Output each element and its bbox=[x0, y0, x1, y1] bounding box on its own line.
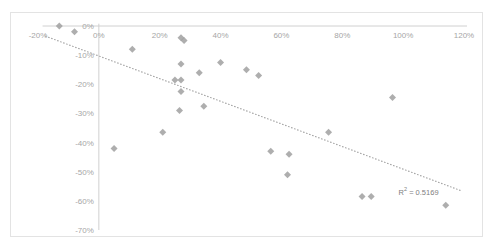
data-point-marker bbox=[178, 76, 185, 83]
y-axis-tick-label: -50% bbox=[54, 167, 94, 176]
x-axis-tick-label: 0% bbox=[93, 31, 105, 40]
y-axis-tick-label: -40% bbox=[54, 138, 94, 147]
x-axis-tick-label: -20% bbox=[29, 31, 48, 40]
data-point-marker bbox=[111, 145, 118, 152]
data-point-marker bbox=[200, 103, 207, 110]
x-axis-tick-label: 80% bbox=[334, 31, 350, 40]
data-point-marker bbox=[159, 129, 166, 136]
x-axis-tick-label: 120% bbox=[454, 31, 474, 40]
data-point-marker bbox=[442, 202, 449, 209]
data-point-marker bbox=[176, 107, 183, 114]
axis-lines bbox=[43, 24, 467, 230]
y-axis-tick-label: -60% bbox=[54, 196, 94, 205]
data-points-group bbox=[56, 23, 449, 209]
data-point-marker bbox=[217, 59, 224, 66]
x-axis-tick-label: 20% bbox=[152, 31, 168, 40]
data-point-marker bbox=[129, 46, 136, 53]
scatter-plot-canvas bbox=[0, 0, 497, 250]
data-point-marker bbox=[368, 193, 375, 200]
y-axis-tick-label: -70% bbox=[54, 226, 94, 235]
x-axis-tick-label: 40% bbox=[213, 31, 229, 40]
y-axis-tick-label: -30% bbox=[54, 109, 94, 118]
y-axis-tick-label: -10% bbox=[54, 51, 94, 60]
y-axis-tick-label: 0% bbox=[54, 22, 94, 31]
data-point-marker bbox=[325, 129, 332, 136]
data-point-marker bbox=[284, 171, 291, 178]
data-point-marker bbox=[196, 69, 203, 76]
data-point-marker bbox=[389, 94, 396, 101]
data-point-marker bbox=[286, 151, 293, 158]
data-point-marker bbox=[171, 76, 178, 83]
trendline-path bbox=[46, 36, 461, 190]
data-point-marker bbox=[255, 72, 262, 79]
chart-screenshot: -20%0%20%40%60%80%100%120% 0%-10%-20%-30… bbox=[0, 0, 497, 250]
data-point-marker bbox=[178, 60, 185, 67]
data-point-marker bbox=[178, 88, 185, 95]
trendline bbox=[46, 36, 461, 190]
r-squared-annotation: R2 = 0.5169 bbox=[399, 186, 439, 197]
data-point-marker bbox=[267, 148, 274, 155]
data-point-marker bbox=[243, 66, 250, 73]
x-axis-tick-label: 100% bbox=[393, 31, 413, 40]
x-axis-tick-label: 60% bbox=[273, 31, 289, 40]
y-axis-tick-label: -20% bbox=[54, 80, 94, 89]
data-point-marker bbox=[359, 193, 366, 200]
